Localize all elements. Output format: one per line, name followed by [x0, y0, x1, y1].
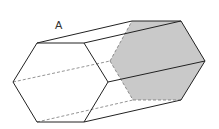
- vertex-label-a: A: [55, 19, 63, 31]
- front-hexagon: [13, 43, 108, 122]
- shaded-cross-section: [110, 21, 205, 100]
- hexagonal-prism-diagram: A: [0, 0, 219, 129]
